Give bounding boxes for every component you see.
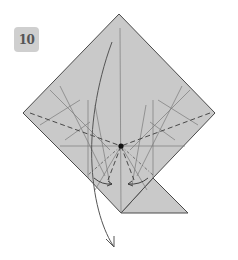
origami-diagram [0,0,238,260]
center-point [118,143,123,148]
paper-diamond [23,14,215,213]
